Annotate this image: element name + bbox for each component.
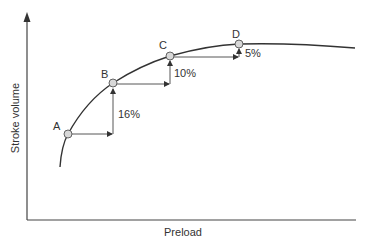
frank-starling-diagram: A B C D 16% 10% 5% Preload Stroke volume xyxy=(0,0,366,239)
starling-curve xyxy=(60,44,355,167)
point-d-marker xyxy=(235,40,243,48)
x-axis-label: Preload xyxy=(164,226,202,238)
point-c-label: C xyxy=(159,39,167,51)
increase-ab-label: 16% xyxy=(118,108,140,120)
point-b-marker xyxy=(109,79,117,87)
point-d-label: D xyxy=(232,28,240,40)
point-a-marker xyxy=(64,130,72,138)
point-b-label: B xyxy=(101,68,108,80)
point-c-marker xyxy=(166,52,174,60)
y-axis-label: Stroke volume xyxy=(9,83,21,153)
y-axis-arrow-icon xyxy=(24,12,31,22)
point-a-label: A xyxy=(53,120,61,132)
increase-cd-label: 5% xyxy=(245,47,261,59)
increase-bc-label: 10% xyxy=(174,67,196,79)
data-points xyxy=(64,40,243,138)
axes xyxy=(24,12,357,220)
